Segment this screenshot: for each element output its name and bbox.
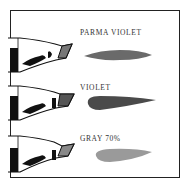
swatch-label: GRAY 70% bbox=[80, 134, 121, 143]
marker-icon bbox=[8, 136, 74, 172]
swatch-label: PARMA VIOLET bbox=[80, 28, 142, 37]
swatch-label: VIOLET bbox=[80, 83, 111, 92]
marker-icon bbox=[8, 38, 72, 72]
marker-icon bbox=[8, 86, 74, 120]
swatch-gray-70 bbox=[96, 149, 152, 162]
swatch-violet bbox=[88, 96, 156, 110]
swatch-parma-violet bbox=[84, 50, 152, 60]
